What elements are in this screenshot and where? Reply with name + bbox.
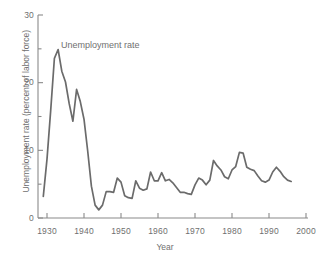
y-axis-tick-label: 30 bbox=[6, 11, 34, 20]
x-axis-tick-label: 1950 bbox=[104, 227, 138, 236]
series-annotation-label: Unemployment rate bbox=[61, 41, 140, 50]
y-axis-tick-label: 20 bbox=[6, 78, 34, 87]
y-axis-tick-label: 10 bbox=[6, 146, 34, 155]
x-axis-tick-label: 1980 bbox=[215, 227, 249, 236]
x-axis-tick-label: 1990 bbox=[252, 227, 286, 236]
unemployment-rate-chart: Unemployment rate Unemployment rate (per… bbox=[0, 0, 319, 262]
x-axis-title: Year bbox=[145, 243, 185, 252]
x-axis-tick-label: 2000 bbox=[289, 227, 319, 236]
unemployment-rate-line bbox=[43, 50, 291, 210]
chart-plot-area bbox=[0, 0, 319, 262]
x-axis-tick-label: 1940 bbox=[67, 227, 101, 236]
x-axis-tick-label: 1960 bbox=[141, 227, 175, 236]
x-axis-tick-label: 1970 bbox=[178, 227, 212, 236]
y-axis-tick-label: 0 bbox=[6, 214, 34, 223]
x-axis-tick-label: 1930 bbox=[30, 227, 64, 236]
y-axis-title: Unemployment rate (percent of labor forc… bbox=[22, 21, 31, 201]
